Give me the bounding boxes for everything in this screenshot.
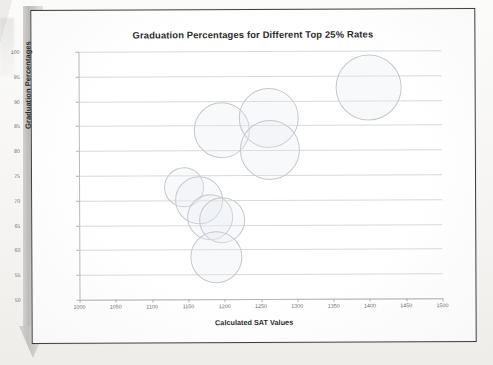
x-tick-mark (80, 300, 81, 303)
y-tick-label: 70 (0, 198, 20, 204)
scan-edge-artifact (0, 18, 14, 76)
y-tick-mark (76, 77, 79, 78)
plot-area (78, 50, 442, 300)
x-tick-mark (116, 300, 117, 303)
x-tick-mark (370, 298, 371, 301)
x-tick-label: 1000 (65, 304, 95, 310)
y-tick-label: 95 (0, 74, 20, 80)
gridline (79, 273, 442, 276)
x-tick-mark (188, 299, 189, 302)
y-tick-mark (76, 176, 79, 177)
data-bubble (240, 120, 300, 180)
y-axis-ticks: 50556065707580859095100 (31, 9, 474, 11)
data-bubble (190, 231, 242, 283)
y-tick-mark (76, 151, 79, 152)
y-tick-mark (76, 275, 79, 276)
x-tick-label: 1350 (319, 303, 349, 309)
chart-frame: Graduation Percentages for Different Top… (30, 8, 476, 344)
x-tick-mark (406, 298, 407, 301)
x-tick-label: 1450 (391, 302, 421, 308)
x-tick-label: 1400 (355, 302, 385, 308)
x-tick-label: 1250 (246, 303, 276, 309)
x-tick-label: 1300 (282, 303, 312, 309)
x-tick-label: 1500 (428, 302, 458, 308)
x-tick-mark (443, 298, 444, 301)
y-tick-label: 85 (0, 123, 20, 129)
y-tick-mark (75, 52, 78, 53)
x-tick-label: 1100 (137, 303, 167, 309)
x-tick-label: 1050 (101, 304, 131, 310)
y-tick-mark (76, 201, 79, 202)
gridline (79, 224, 442, 227)
x-tick-label: 1150 (173, 303, 203, 309)
x-tick-label: 1200 (210, 303, 240, 309)
y-tick-label: 100 (0, 49, 19, 55)
x-tick-mark (152, 299, 153, 302)
y-tick-label: 55 (0, 272, 20, 278)
y-tick-label: 50 (0, 297, 21, 303)
y-tick-mark (76, 250, 79, 251)
y-tick-label: 65 (0, 223, 20, 229)
x-tick-mark (225, 299, 226, 302)
y-tick-mark (76, 101, 79, 102)
gridline (79, 199, 442, 202)
x-axis-ticks: 1000105011001150120012501300135014001450… (31, 9, 474, 11)
y-tick-mark (76, 126, 79, 127)
y-tick-label: 75 (0, 173, 20, 179)
x-tick-mark (334, 299, 335, 302)
y-tick-label: 60 (0, 247, 20, 253)
y-axis-title: Graduation Percentages (23, 41, 32, 129)
chart-title: Graduation Percentages for Different Top… (31, 28, 474, 41)
y-tick-label: 90 (0, 99, 20, 105)
y-tick-mark (76, 225, 79, 226)
gridline (78, 50, 441, 53)
x-tick-mark (261, 299, 262, 302)
x-tick-mark (297, 299, 298, 302)
gridline (79, 249, 442, 252)
y-tick-label: 80 (0, 148, 20, 154)
x-axis-title: Calculated SAT Values (33, 317, 476, 328)
